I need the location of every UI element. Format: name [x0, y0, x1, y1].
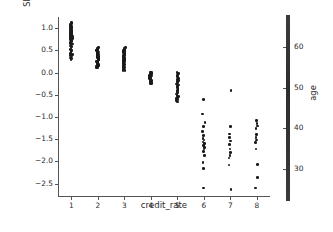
y-tick-label: −2.0: [35, 158, 53, 165]
data-point: [202, 125, 205, 128]
y-tick-label: 0.0: [41, 69, 53, 76]
x-axis-spine: [58, 196, 270, 197]
data-point: [256, 176, 259, 179]
colorbar-label: age: [308, 73, 318, 113]
y-tick-mark: [55, 184, 58, 185]
colorbar-tick-label: 50: [294, 84, 303, 91]
colorbar-tick-mark: [283, 128, 286, 129]
data-point: [256, 163, 259, 166]
colorbar-tick-mark: [283, 47, 286, 48]
data-point: [202, 187, 205, 190]
data-point: [201, 130, 204, 133]
data-point: [70, 58, 73, 61]
data-point: [202, 167, 205, 170]
data-point: [124, 69, 127, 72]
data-point: [254, 141, 257, 144]
data-point: [228, 164, 231, 167]
data-point: [230, 188, 233, 191]
y-tick-mark: [55, 28, 58, 29]
colorbar-tick-mark: [283, 88, 286, 89]
data-point: [229, 125, 232, 128]
colorbar: 60504030 age: [286, 15, 333, 202]
data-point: [228, 133, 231, 136]
y-tick-label: −1.5: [35, 136, 53, 143]
data-point: [228, 143, 231, 146]
y-tick-mark: [55, 73, 58, 74]
plot-area: 1.00.50.0−0.5−1.0−1.5−2.0−2.5 12345678: [58, 17, 270, 197]
data-point: [176, 101, 179, 104]
y-tick-label: 0.5: [41, 47, 53, 54]
y-axis-label-line1: SHAP value for: [22, 0, 32, 7]
y-tick-mark: [55, 95, 58, 96]
data-point: [228, 157, 231, 160]
data-point: [202, 161, 205, 164]
data-point: [202, 98, 205, 101]
y-tick-label: −1.0: [35, 113, 53, 120]
y-tick-label: 1.0: [41, 24, 53, 31]
data-point: [229, 140, 232, 143]
data-point: [255, 148, 258, 151]
y-axis-spine: [58, 17, 59, 197]
shap-scatter-figure: SHAP value for credit_rate 1.00.50.0−0.5…: [0, 0, 333, 232]
y-tick-label: −2.5: [35, 180, 53, 187]
y-tick-mark: [55, 50, 58, 51]
data-point: [95, 66, 98, 69]
colorbar-tick-mark: [283, 169, 286, 170]
y-axis-label: SHAP value for credit_rate: [14, 0, 40, 43]
x-axis-label: credit_rate: [58, 200, 270, 210]
data-point: [228, 136, 231, 139]
data-point: [201, 113, 204, 116]
colorbar-tick-label: 40: [294, 125, 303, 132]
data-point: [255, 127, 258, 130]
data-point: [204, 121, 207, 124]
y-tick-label: −0.5: [35, 91, 53, 98]
y-tick-mark: [55, 161, 58, 162]
data-point: [202, 150, 205, 153]
y-tick-mark: [55, 117, 58, 118]
colorbar-tick-label: 30: [294, 165, 303, 172]
y-tick-mark: [55, 139, 58, 140]
data-point: [230, 89, 233, 92]
data-point: [203, 154, 206, 157]
data-point: [254, 187, 257, 190]
colorbar-gradient: [286, 15, 290, 201]
colorbar-tick-label: 60: [294, 44, 303, 51]
data-point: [229, 148, 232, 151]
